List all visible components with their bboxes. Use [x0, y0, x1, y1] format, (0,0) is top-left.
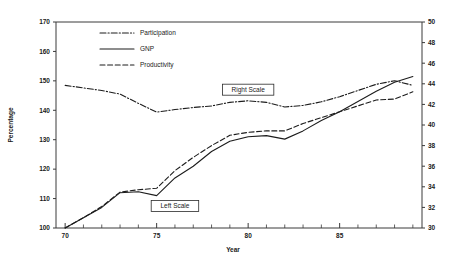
- axes-group: [56, 22, 422, 228]
- x-tick-label: 85: [336, 232, 344, 239]
- series-line-gnp: [65, 76, 413, 228]
- chart-legend: ParticipationGNPProductivity: [100, 29, 176, 69]
- left-tick-label: 130: [39, 136, 50, 143]
- left-tick-label: 110: [40, 195, 51, 202]
- x-tick-label: 75: [153, 232, 161, 239]
- right-tick-label: 42: [428, 101, 436, 108]
- left-tick-label: 120: [39, 165, 50, 172]
- left-tick-label: 160: [39, 48, 50, 55]
- right-tick-label: 40: [428, 121, 436, 128]
- callout-label: Right Scale: [232, 86, 266, 94]
- right-tick-label: 30: [428, 224, 436, 231]
- right-tick-label: 36: [428, 163, 436, 170]
- callout-label: Left Scale: [160, 202, 189, 209]
- left-tick-label: 150: [39, 77, 50, 84]
- left-tick-label: 170: [39, 18, 50, 25]
- left-tick-label: 140: [39, 107, 50, 114]
- right-tick-label: 50: [428, 18, 436, 25]
- right-tick-label: 44: [428, 80, 436, 87]
- series-group: [65, 76, 413, 228]
- legend-label-gnp: GNP: [140, 45, 154, 52]
- right-tick-label: 38: [428, 142, 436, 149]
- left-tick-label: 100: [39, 224, 50, 231]
- right-tick-label: 32: [428, 204, 436, 211]
- right-axis-ticks: 3032343638404244464850: [422, 18, 436, 231]
- annotations-group: Right ScaleLeft Scale: [151, 84, 274, 211]
- legend-label-participation: Participation: [140, 29, 176, 37]
- series-line-productivity: [65, 92, 413, 228]
- right-tick-label: 46: [428, 60, 436, 67]
- x-axis-label: Year: [226, 246, 240, 253]
- legend-label-productivity: Productivity: [140, 61, 174, 69]
- x-tick-label: 80: [245, 232, 253, 239]
- right-tick-label: 34: [428, 183, 436, 190]
- line-chart: 100110120130140150160170 303234363840424…: [0, 0, 458, 262]
- x-axis-ticks: 70758085: [62, 223, 413, 239]
- left-axis-ticks: 100110120130140150160170: [39, 18, 56, 231]
- y-axis-label: Percentage: [7, 107, 15, 142]
- right-tick-label: 48: [428, 39, 436, 46]
- x-tick-label: 70: [62, 232, 70, 239]
- chart-container: 100110120130140150160170 303234363840424…: [0, 0, 458, 262]
